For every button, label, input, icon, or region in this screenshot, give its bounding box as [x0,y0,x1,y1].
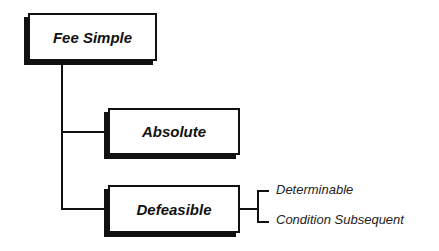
fee-simple-label: Fee Simple [53,29,132,46]
condition-subsequent-label: Condition Subsequent [276,212,404,227]
defeasible-node: Defeasible [108,185,240,233]
absolute-node: Absolute [108,108,240,155]
defeasible-label: Defeasible [136,201,211,218]
absolute-label: Absolute [142,123,206,140]
condition-tick [257,221,269,223]
absolute-connector [61,131,108,133]
determinable-tick [257,190,269,192]
defeasible-connector [61,208,108,210]
determinable-label: Determinable [276,182,353,197]
trunk-line [61,61,63,210]
fee-simple-node: Fee Simple [28,13,157,61]
subtype-bracket [257,190,259,223]
